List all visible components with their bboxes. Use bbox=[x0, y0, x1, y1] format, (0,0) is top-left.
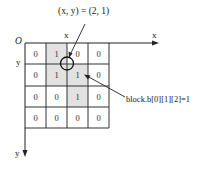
cell-2-2: 1 bbox=[75, 92, 79, 102]
coordinate-label: (x, y) = (2, 1) bbox=[58, 6, 109, 16]
cell-0-3: 0 bbox=[96, 49, 100, 59]
cell-2-3: 0 bbox=[96, 92, 100, 102]
cell-3-2: 0 bbox=[75, 113, 79, 123]
row-marker-y: y bbox=[16, 57, 21, 67]
cell-2-1: 0 bbox=[54, 92, 58, 102]
cell-0-1: 1 bbox=[54, 49, 58, 59]
coordinate-pointer-arrowhead-icon bbox=[69, 52, 73, 59]
origin-label: O bbox=[15, 36, 22, 46]
cell-3-1: 0 bbox=[54, 113, 58, 123]
diagram-canvas: 0 1 0 0 0 1 1 0 0 0 1 0 0 0 0 0 bbox=[0, 0, 210, 170]
cell-2-0: 0 bbox=[33, 92, 37, 102]
cell-1-0: 0 bbox=[33, 70, 37, 80]
cell-1-2: 1 bbox=[75, 70, 79, 80]
y-axis-label: y bbox=[15, 148, 20, 158]
column-marker-x: x bbox=[64, 30, 69, 40]
y-axis-arrowhead-icon bbox=[23, 150, 28, 157]
cell-0-0: 0 bbox=[33, 49, 37, 59]
cell-3-0: 0 bbox=[33, 113, 37, 123]
cell-1-1: 1 bbox=[54, 70, 58, 80]
cell-1-3: 0 bbox=[96, 70, 100, 80]
cell-0-2: 0 bbox=[75, 49, 79, 59]
annotation-label: block.b[0][1][2]=1 bbox=[126, 94, 190, 104]
x-axis-arrowhead-icon bbox=[152, 41, 159, 46]
cell-3-3: 0 bbox=[96, 113, 100, 123]
x-axis-label: x bbox=[152, 30, 157, 40]
